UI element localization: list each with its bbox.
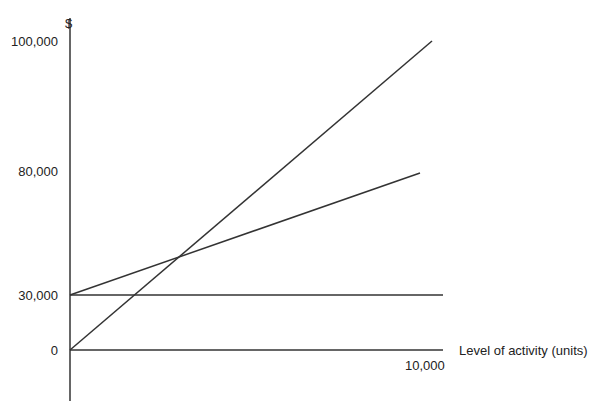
x-tick-10000: 10,000 <box>405 358 445 373</box>
x-axis-title: Level of activity (units) <box>459 343 588 358</box>
y-axis-unit-label: $ <box>65 16 72 31</box>
y-tick-100000: 100,000 <box>0 34 58 49</box>
y-tick-80000: 80,000 <box>0 164 58 179</box>
y-tick-30000: 30,000 <box>0 288 58 303</box>
total-cost-line <box>70 173 420 295</box>
sales-revenue-line <box>70 41 432 350</box>
y-tick-0: 0 <box>0 343 58 358</box>
